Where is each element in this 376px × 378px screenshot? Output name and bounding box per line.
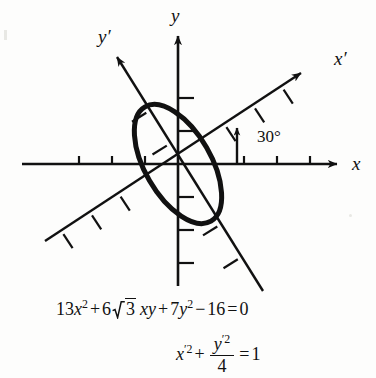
y-prime-axis <box>117 57 263 291</box>
rotation-angle-label: 30° <box>257 128 281 145</box>
fraction-numerator: y′2 <box>210 333 235 356</box>
figure-page: y x x′ y′ 30° 13x2+63xy+7y2−16=0 x′2+ y′… <box>0 0 376 378</box>
eqrot-var-x: x <box>176 344 184 364</box>
eqrot-num-var: y <box>214 334 222 354</box>
y-axis-label: y <box>171 6 179 25</box>
eqrot-equals: = <box>237 344 251 364</box>
eq-plus-second: + <box>156 299 170 319</box>
eq-coefficient-xy: 6 <box>102 299 111 319</box>
eq-coefficient-y2: 7 <box>170 299 179 319</box>
x-axis-label: x <box>352 154 360 173</box>
eq-var-xy: xy <box>140 299 156 319</box>
eq-minus: − <box>193 299 207 319</box>
eq-radicand: 3 <box>125 298 136 319</box>
fraction: y′2 4 <box>210 333 235 376</box>
x-prime-axis <box>45 73 301 248</box>
eqrot-exponent-y: 2 <box>224 332 230 346</box>
eqrot-num-sup: ′2 <box>222 332 231 346</box>
eq-equals: = <box>225 299 239 319</box>
eq-plus-first: + <box>88 299 102 319</box>
y-prime-axis-label: y′ <box>98 27 111 46</box>
eq-var-x: x <box>74 299 82 319</box>
rotated-conic-equation: x′2+ y′2 4 =1 <box>176 334 260 377</box>
fraction-denominator: 4 <box>210 356 235 376</box>
eq-constant: 16 <box>207 299 225 319</box>
general-conic-equation: 13x2+63xy+7y2−16=0 <box>56 299 248 319</box>
eq-rhs: 0 <box>239 299 248 319</box>
square-root-icon <box>111 300 125 319</box>
eqrot-exponent-x: 2 <box>187 342 193 356</box>
eqrot-rhs: 1 <box>251 344 260 364</box>
y-axis <box>178 36 194 286</box>
x-prime-axis-label: x′ <box>334 49 347 68</box>
eqrot-plus: + <box>193 344 207 364</box>
eqrot-prime-x: ′2 <box>184 342 193 356</box>
eq-coefficient-x2: 13 <box>56 299 74 319</box>
coordinate-diagram <box>0 0 376 378</box>
